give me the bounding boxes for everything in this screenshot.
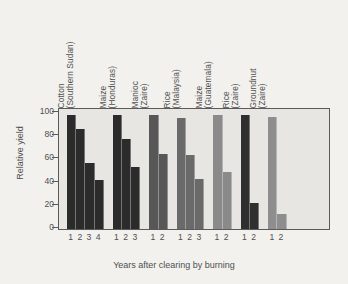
bar	[76, 129, 85, 229]
y-axis-tick-label: 0	[28, 222, 54, 232]
crop-label: Rice(Zaire)	[222, 83, 240, 108]
bar	[213, 115, 222, 229]
bar	[67, 115, 76, 229]
crop-region: (Zaire)	[258, 68, 267, 108]
x-axis-tick-label: 2	[123, 232, 128, 242]
crop-name: Rice	[161, 91, 171, 108]
y-axis-tick-label: 20	[28, 199, 54, 209]
bar	[241, 115, 250, 229]
crop-label-row: Cotton(Southern Sudan)Maize(Honduras)Man…	[0, 0, 348, 108]
x-axis-tick-label: 3	[196, 232, 201, 242]
x-axis-tick-label: 1	[215, 232, 220, 242]
crop-label: Groundnut(Zaire)	[249, 68, 267, 108]
crop-region: (Guatemala)	[203, 61, 212, 108]
bar	[223, 172, 232, 229]
crop-label: Rice(Malaysia)	[162, 69, 180, 108]
crop-label: Cotton(Southern Sudan)	[57, 41, 75, 108]
x-axis-tick-label: 2	[251, 232, 256, 242]
x-axis-tick-label: 2	[77, 232, 82, 242]
x-axis-title: Years after clearing by burning	[0, 260, 348, 270]
crop-name: Manioc	[129, 81, 139, 108]
crop-region: (Zaire)	[231, 83, 240, 108]
x-axis-tick-label: 1	[178, 232, 183, 242]
crop-region: (Zaire)	[139, 81, 148, 108]
x-axis-tick-label: 1	[68, 232, 73, 242]
crop-region: (Malaysia)	[171, 69, 180, 108]
x-axis-tick-label: 1	[114, 232, 119, 242]
bar	[195, 179, 204, 229]
bar	[113, 115, 122, 229]
x-axis-tick-label: 3	[87, 232, 92, 242]
y-axis-tick-label: 80	[28, 129, 54, 139]
y-axis-tick-mark	[52, 157, 58, 158]
y-axis-tick-mark	[52, 134, 58, 135]
x-axis-tick-label: 2	[160, 232, 165, 242]
bar	[85, 163, 94, 229]
x-axis-tick-label: 4	[96, 232, 101, 242]
plot-inner	[59, 109, 329, 229]
crop-label: Maize(Honduras)	[98, 65, 116, 108]
crop-region: (Southern Sudan)	[66, 41, 75, 108]
crop-name: Maize	[193, 85, 203, 108]
y-axis-title: Relative yield	[15, 103, 25, 203]
y-axis-tick-label: 40	[28, 176, 54, 186]
bar	[186, 155, 195, 229]
plot-area	[58, 108, 330, 230]
bar	[268, 117, 277, 229]
bar	[159, 154, 168, 229]
bar	[131, 167, 140, 229]
bar	[250, 203, 259, 229]
x-axis-tick-label: 1	[269, 232, 274, 242]
crop-label: Maize(Guatemala)	[194, 61, 212, 108]
bar	[95, 180, 104, 229]
bar	[149, 115, 158, 229]
y-axis-tick-mark	[52, 111, 58, 112]
crop-region: (Honduras)	[107, 65, 116, 108]
x-axis-tick-label: 2	[279, 232, 284, 242]
y-axis-tick-mark	[52, 181, 58, 182]
x-axis-tick-label: 1	[151, 232, 156, 242]
y-axis-tick-label: 60	[28, 152, 54, 162]
bar	[277, 214, 286, 229]
x-axis-tick-label: 1	[242, 232, 247, 242]
bar	[177, 118, 186, 229]
relative-yield-bar-chart: Cotton(Southern Sudan)Maize(Honduras)Man…	[0, 0, 348, 284]
crop-label: Manioc(Zaire)	[130, 81, 148, 108]
y-axis-tick-mark	[52, 227, 58, 228]
crop-name: Maize	[97, 85, 107, 108]
x-axis-tick-label: 2	[224, 232, 229, 242]
x-axis-tick-label: 3	[132, 232, 137, 242]
x-axis-tick-label: 2	[187, 232, 192, 242]
y-axis-tick-label: 100	[28, 106, 54, 116]
bar	[122, 139, 131, 229]
y-axis-tick-mark	[52, 204, 58, 205]
